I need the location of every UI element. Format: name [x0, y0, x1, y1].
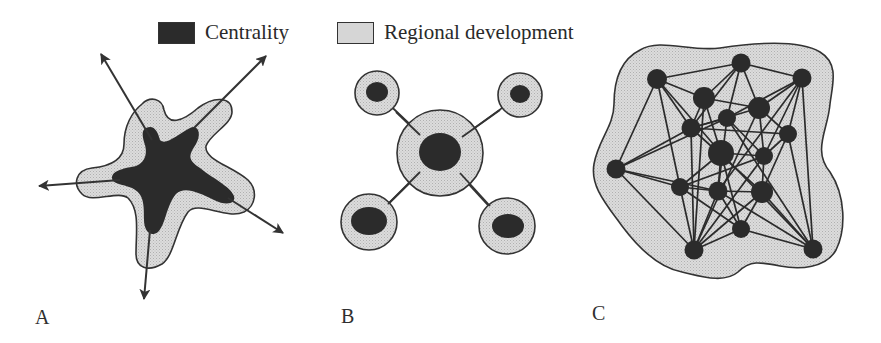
centrality-node — [732, 54, 751, 73]
panel-label-a: A — [35, 306, 49, 329]
centrality-center — [419, 133, 461, 171]
centrality-node — [671, 178, 689, 196]
centrality-node — [718, 109, 736, 127]
centrality-node — [647, 69, 667, 89]
centrality-node — [779, 125, 797, 143]
panel-b — [341, 71, 542, 254]
panel-a — [39, 54, 283, 299]
panel-label-c: C — [592, 302, 605, 325]
centrality-node — [751, 181, 773, 203]
centrality-node — [682, 119, 701, 138]
centrality-node — [708, 140, 734, 166]
centrality-node — [693, 87, 715, 109]
centrality-top-right — [510, 85, 530, 103]
centrality-node — [685, 241, 704, 260]
arrow-south-east-icon — [228, 198, 283, 233]
panel-c — [593, 43, 843, 278]
centrality-node — [804, 240, 823, 259]
centrality-node — [607, 160, 626, 179]
centrality-node — [748, 97, 770, 119]
centrality-node — [755, 147, 773, 165]
centrality-top-left — [366, 82, 388, 102]
centrality-bottom-right — [492, 214, 524, 238]
centrality-node — [709, 182, 728, 201]
centrality-bottom-left — [351, 207, 387, 235]
centrality-node — [793, 69, 812, 88]
panel-label-b: B — [341, 305, 354, 328]
centrality-node — [732, 220, 750, 238]
diagram-canvas — [0, 0, 881, 343]
